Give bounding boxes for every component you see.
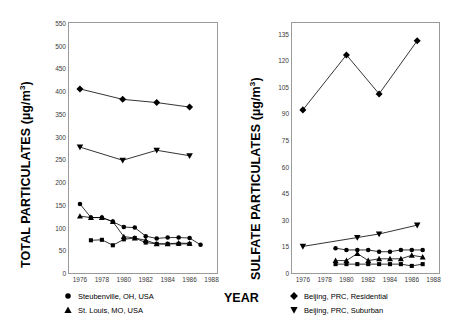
legend-marker-circle-icon [62,290,74,302]
y-axis-tick-plot-right: 90 [282,110,289,117]
data-point [399,262,403,266]
data-point [188,242,192,246]
series-square [334,262,425,268]
data-point [409,252,415,257]
y-axis-tick-plot-right: 105 [278,83,289,90]
y-axis-tick-plot-left: 300 [55,133,66,140]
y-axis-label-right: SULFATE PARTICULATES (µg/m3) [248,77,263,280]
figure-root: TOTAL PARTICULATES (µg/m3) 0501001502002… [0,0,462,321]
data-point [366,262,370,266]
series-layer-right [292,23,441,275]
data-point [399,248,404,253]
data-point [377,249,382,254]
legend-label: Beijing, PRC, Suburban [304,306,383,315]
data-point [119,158,126,164]
y-axis-tick-plot-right: 45 [282,190,289,197]
data-point [133,225,138,230]
y-axis-tick-plot-right: 30 [282,216,289,223]
data-point [78,202,83,207]
data-point [76,85,83,92]
data-point [410,248,415,253]
data-point [377,262,381,266]
y-axis-tick-plot-left: 50 [59,247,66,254]
x-axis-tick-plot-right: 1986 [405,276,419,283]
x-axis-tick-plot-right: 1980 [339,276,353,283]
x-axis-tick-plot-right: 1978 [317,276,331,283]
legend-label: St. Louis, MO, USA [78,306,143,315]
y-axis-tick-plot-right: 75 [282,137,289,144]
data-point [77,213,83,218]
plot-area-total-particulates: 0501001502002503003504004505005501976197… [68,22,218,274]
legend-item: Beijing, PRC, Suburban [288,303,388,317]
y-axis-tick-plot-left: 500 [55,42,66,49]
data-point [176,235,181,240]
legend-marker-triangle-down-icon [288,304,300,316]
data-point [122,225,127,230]
data-point [111,243,115,247]
legend-label: Steubenville, OH, USA [78,292,154,301]
data-point [186,153,193,159]
x-axis-label: YEAR [224,291,259,305]
data-point [355,262,359,266]
legend-marker-diamond-icon [288,290,300,302]
y-axis-tick-plot-right: 0 [285,270,289,277]
series-triangle-down [77,144,193,163]
series-circle [333,246,425,254]
data-point [89,238,93,242]
data-point [198,243,203,248]
x-axis-tick-plot-left: 1986 [182,276,196,283]
data-point [100,238,104,242]
series-diamond [76,85,193,110]
data-point [300,244,307,250]
legend-right: Beijing, PRC, ResidentialBeijing, PRC, S… [288,289,388,317]
data-point [334,262,338,266]
data-point [154,236,159,241]
data-point [366,248,371,253]
x-axis-tick-plot-right: 1984 [383,276,397,283]
x-axis-tick-plot-left: 1978 [95,276,109,283]
data-point [119,96,126,103]
data-point [153,99,160,106]
data-point [388,249,393,254]
legend-item: Steubenville, OH, USA [62,289,154,303]
x-axis-tick-plot-left: 1984 [160,276,174,283]
x-axis-tick-plot-left: 1980 [117,276,131,283]
legend-label: Beijing, PRC, Residential [304,292,388,301]
data-point [186,104,193,111]
plot-area-sulfate-particulates: 0153045607590105120135197619781980198219… [291,22,440,274]
data-point [166,242,170,246]
y-axis-tick-plot-left: 400 [55,88,66,95]
data-point [388,262,392,266]
data-point [299,106,306,113]
legend-marker-triangle-up-icon [62,304,74,316]
y-axis-tick-plot-right: 15 [282,243,289,250]
series-layer-left [69,23,219,275]
data-point [420,248,425,253]
y-axis-tick-plot-left: 450 [55,65,66,72]
x-axis-tick-plot-left: 1976 [73,276,87,283]
data-point [133,236,137,240]
y-axis-tick-plot-left: 200 [55,179,66,186]
x-axis-tick-plot-right: 1976 [296,276,310,283]
data-point [155,242,159,246]
y-axis-tick-plot-left: 100 [55,224,66,231]
data-point [354,251,360,256]
x-axis-tick-plot-left: 1982 [139,276,153,283]
x-axis-tick-plot-left: 1988 [204,276,218,283]
x-axis-tick-plot-right: 1988 [426,276,440,283]
y-axis-tick-plot-left: 550 [55,20,66,27]
series-triangle-down [300,223,421,250]
legend-left: Steubenville, OH, USASt. Louis, MO, USA [62,289,154,317]
data-point [177,242,181,246]
y-axis-tick-plot-left: 350 [55,110,66,117]
y-axis-label-left: TOTAL PARTICULATES (µg/m3) [18,81,33,268]
data-point [122,237,126,241]
x-axis-tick-plot-right: 1982 [361,276,375,283]
data-point [344,248,349,253]
y-axis-tick-plot-left: 250 [55,156,66,163]
data-point [421,262,425,266]
data-point [344,262,348,266]
y-axis-tick-plot-left: 0 [62,270,66,277]
data-point [144,241,148,245]
data-point [165,235,170,240]
